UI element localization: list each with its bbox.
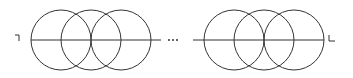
left-circle-group [31, 10, 161, 70]
ellipsis-dot-2 [172, 39, 174, 41]
ellipsis-dots [168, 39, 178, 41]
ellipsis-dot-3 [176, 39, 178, 41]
right-circle-group [193, 10, 324, 70]
right-end-hook [329, 35, 335, 41]
left-end-hook [15, 35, 19, 41]
circle-chain-diagram [0, 0, 353, 78]
ellipsis-dot-1 [168, 39, 170, 41]
diagram-canvas [0, 0, 353, 78]
